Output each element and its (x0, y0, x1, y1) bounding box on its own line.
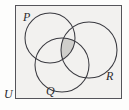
set-label-r: R (106, 70, 113, 82)
set-label-q: Q (46, 85, 55, 97)
universal-set-label: U (4, 88, 13, 100)
venn-circles-svg (0, 0, 129, 110)
set-label-p: P (23, 11, 30, 23)
set-circle-p (25, 13, 75, 63)
venn-diagram-figure: P Q R U (0, 0, 129, 110)
